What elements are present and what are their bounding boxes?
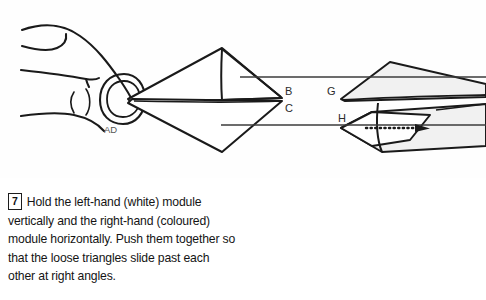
figure-panel: AD B C G H: [0, 0, 486, 178]
knuckle-crease-upper: [22, 34, 66, 50]
caption-panel: 7Hold the left-hand (white) module verti…: [0, 178, 486, 300]
step-number-badge: 7: [8, 193, 22, 210]
caption-block: 7Hold the left-hand (white) module verti…: [8, 192, 238, 285]
white-module: [128, 48, 282, 152]
white-module-upper-face: [128, 48, 282, 103]
white-module-fold-line: [221, 49, 222, 100]
palm-lower-edge: [21, 113, 104, 131]
finger-fold-line: [21, 70, 99, 80]
label-g: G: [327, 85, 336, 97]
assembly-diagram: AD B C G H: [0, 0, 486, 178]
caption-text: Hold the left-hand (white) module vertic…: [8, 195, 235, 283]
finger-shading-stroke-1: [71, 92, 74, 113]
coloured-module: [341, 62, 486, 152]
instruction-page: AD B C G H 7Hold the left-hand (white) m…: [0, 0, 486, 300]
index-finger-top-edge: [22, 25, 132, 100]
label-ad: AD: [104, 124, 117, 135]
label-b: B: [285, 85, 292, 97]
label-c: C: [285, 102, 293, 114]
label-h: H: [338, 112, 346, 124]
hand-drawing: [21, 25, 145, 131]
finger-shading-stroke-2: [86, 89, 90, 115]
